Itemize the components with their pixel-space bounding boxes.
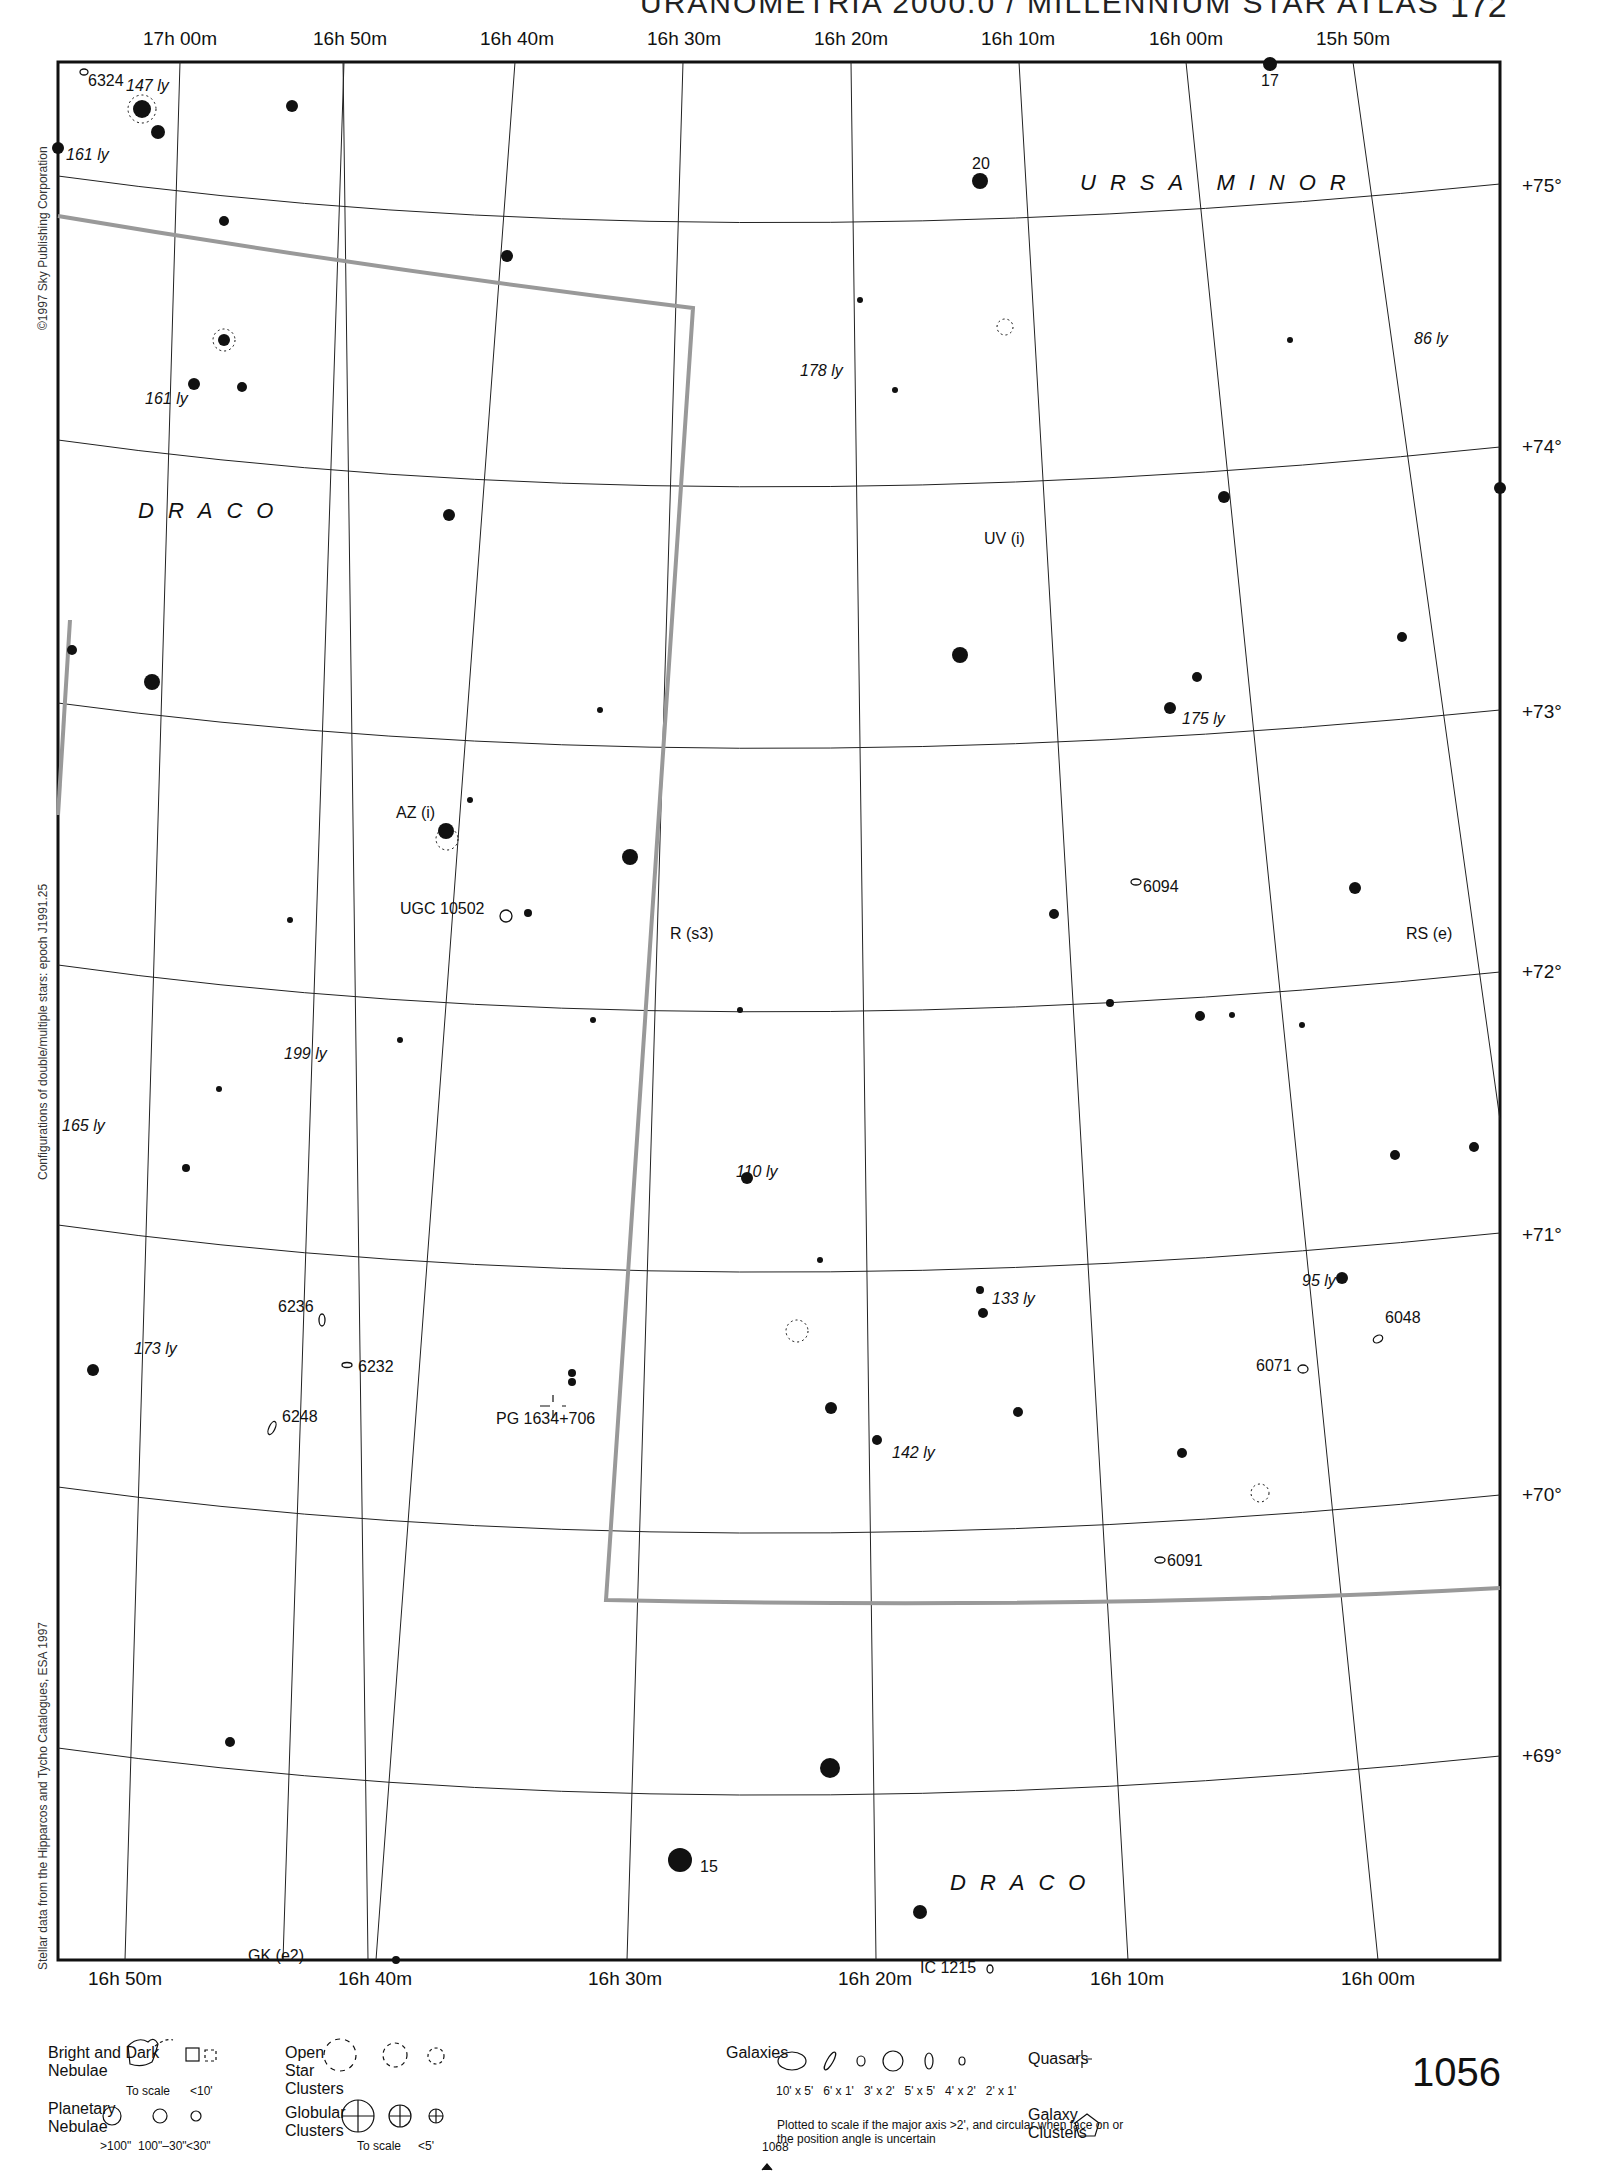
dec-gridlines — [58, 176, 1500, 1795]
legend-open-clusters: Open Star Clusters — [285, 2044, 345, 2098]
distance-label: 161 ly — [145, 390, 188, 408]
ngc-label: 6232 — [358, 1358, 394, 1376]
distance-label: 161 ly — [66, 146, 109, 164]
distance-label: 178 ly — [800, 362, 843, 380]
legend-gc-scale: To scale — [357, 2139, 401, 2153]
ngc-label: 6071 — [1256, 1357, 1292, 1375]
chart-number: 1056 — [1412, 2050, 1501, 2095]
legend-quasars: Quasars — [1028, 2050, 1088, 2068]
legend-galaxy-size: 2' x 1' — [986, 2082, 1017, 2100]
legend-nebulae-small: <10' — [190, 2084, 213, 2098]
constellation-boundary — [58, 216, 1500, 1603]
distance-label: 165 ly — [62, 1117, 105, 1135]
ngc-label: 6048 — [1385, 1309, 1421, 1327]
galaxy-label: UGC 10502 — [400, 900, 485, 918]
legend-planetary: Planetary Nebulae — [48, 2100, 128, 2136]
legend-galaxy-size: 4' x 2' — [945, 2082, 976, 2100]
distance-label: 147 ly — [126, 77, 169, 95]
variable-star-markers — [128, 95, 1269, 1502]
legend-galaxy-clusters: Galaxy Clusters — [1028, 2106, 1088, 2142]
distance-label: 110 ly — [736, 1163, 778, 1181]
adjacent-chart-link[interactable]: 1068 — [762, 2140, 789, 2154]
ngc-label: 6236 — [278, 1298, 314, 1316]
ngc-label: 6248 — [282, 1408, 318, 1426]
ic-label: IC 1215 — [920, 1959, 976, 1977]
star-label: 15 — [700, 1858, 718, 1876]
stars — [52, 57, 1506, 1964]
star-chart — [0, 0, 1598, 2171]
distance-label: 133 ly — [992, 1290, 1035, 1308]
legend-pn-size: 100"–30" — [138, 2139, 187, 2153]
legend-nebulae-scale: To scale — [126, 2084, 170, 2098]
legend-globular: Globular Clusters — [285, 2104, 345, 2140]
legend-galaxy-size: 6' x 1' — [823, 2082, 854, 2100]
ngc-label: 6091 — [1167, 1552, 1203, 1570]
ra-gridlines — [125, 62, 1500, 1960]
ngc-label: 6324 — [88, 72, 124, 90]
legend-symbols — [103, 2039, 1099, 2170]
galaxy-symbols — [80, 69, 1384, 1973]
chart-frame — [58, 62, 1500, 1960]
distance-label: 199 ly — [284, 1045, 327, 1063]
ngc-label: 6094 — [1143, 878, 1179, 896]
distance-label: 95 ly — [1302, 1272, 1336, 1290]
legend-galaxy-size: 5' x 5' — [905, 2082, 936, 2100]
legend-galaxy-size: 10' x 5' — [776, 2082, 813, 2100]
constellation-label-ursa-minor: URSA MINOR — [1080, 170, 1360, 196]
constellation-label-draco: DRACO — [138, 498, 287, 524]
legend-pn-size: >100" — [100, 2139, 131, 2153]
star-label: 20 — [972, 155, 990, 173]
variable-star-label: UV (i) — [984, 530, 1025, 548]
legend-galaxies: Galaxies — [726, 2044, 788, 2062]
legend-nebulae: Bright and Dark Nebulae — [48, 2044, 166, 2080]
constellation-label-draco: DRACO — [950, 1870, 1099, 1896]
variable-star-label: GK (e2) — [248, 1947, 304, 1965]
variable-star-label: RS (e) — [1406, 925, 1452, 943]
distance-label: 175 ly — [1182, 710, 1225, 728]
legend-gc-small: <5' — [418, 2139, 434, 2153]
star-label: 17 — [1261, 72, 1279, 90]
variable-star-label: R (s3) — [670, 925, 714, 943]
legend-galaxy-size: 3' x 2' — [864, 2082, 895, 2100]
distance-label: 86 ly — [1414, 330, 1448, 348]
distance-label: 173 ly — [134, 1340, 177, 1358]
quasar-label: PG 1634+706 — [496, 1410, 595, 1428]
distance-label: 142 ly — [892, 1444, 935, 1462]
legend-pn-size: <30" — [186, 2139, 211, 2153]
variable-star-label: AZ (i) — [396, 804, 435, 822]
